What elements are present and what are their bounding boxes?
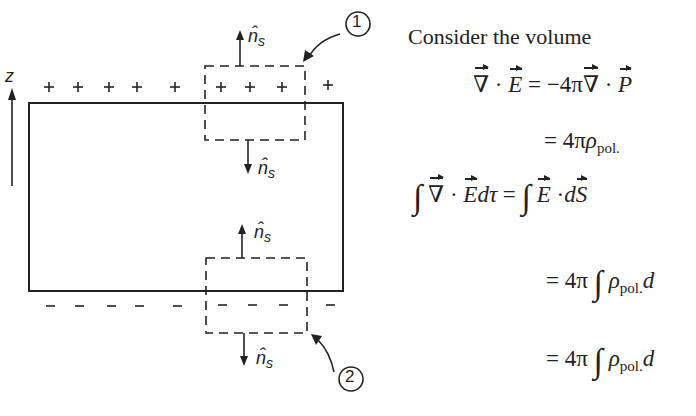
normal-symbol: n̂ (248, 26, 258, 46)
normal-label-bottom-down: n̂s (256, 348, 273, 369)
equals: = (528, 72, 541, 97)
dielectric-slab-figure (0, 0, 396, 416)
vector-E: E (508, 72, 522, 98)
coefficient: 4π (565, 268, 588, 293)
integral-sign: ∫ (594, 342, 603, 379)
normal-down-arrow-icon (244, 140, 252, 174)
normal-up-arrow-icon (238, 224, 246, 258)
dot-operator: · (495, 72, 503, 97)
normal-subscript: s (258, 33, 265, 49)
gaussian-pillbox-bottom (206, 258, 307, 333)
equals: = (546, 346, 559, 371)
normal-label-top-down: n̂s (258, 158, 275, 179)
surface-negative-charges (46, 305, 335, 306)
vector-P: P (618, 72, 632, 98)
vector-E: E (537, 182, 551, 208)
vector-S: S (576, 182, 588, 208)
integral-sign: ∫ (594, 264, 603, 301)
subscript-pol: pol. (597, 140, 620, 156)
d: d (564, 182, 576, 207)
surface-positive-charges (44, 80, 333, 92)
equation-volume-integral-1: = 4π ∫ ρpol.d (546, 258, 654, 296)
equals: = (546, 268, 559, 293)
rho: ρ (609, 346, 620, 371)
equals: = (544, 128, 557, 153)
dot-operator: · (605, 72, 613, 97)
equation-divergence-E: ∇ · E = −4π∇ · P (473, 71, 632, 98)
z-axis-label: z (5, 66, 14, 87)
dot-operator: · (450, 182, 458, 207)
subscript-pol: pol. (620, 358, 643, 374)
intro-text: Consider the volume (408, 24, 591, 50)
dot-operator: · (556, 182, 564, 207)
equation-divergence-theorem: ∫ ∇ · Edτ = ∫ E ·dS (413, 172, 587, 210)
normal-up-arrow-icon (236, 30, 244, 66)
dielectric-slab (29, 103, 343, 291)
callout-2 (311, 334, 363, 391)
normal-subscript: s (264, 229, 271, 245)
nabla: ∇ (428, 181, 444, 208)
d-tau: dτ (477, 182, 497, 207)
normal-symbol: n̂ (254, 222, 264, 242)
normal-symbol: n̂ (258, 158, 268, 178)
normal-subscript: s (266, 355, 273, 371)
integral-sign: ∫ (522, 178, 531, 215)
normal-subscript: s (268, 165, 275, 181)
d: d (643, 346, 655, 371)
integral-sign: ∫ (413, 178, 422, 215)
nabla: ∇ (583, 71, 599, 98)
rho: ρ (586, 128, 597, 153)
normal-symbol: n̂ (256, 348, 266, 368)
coefficient: 4π (563, 128, 586, 153)
coefficient: 4π (565, 346, 588, 371)
normal-down-arrow-icon (240, 333, 248, 366)
callout-label-2: 2 (345, 367, 354, 387)
nabla: ∇ (473, 71, 489, 98)
d: d (643, 268, 655, 293)
z-axis-arrow-icon (8, 88, 16, 186)
rho: ρ (609, 268, 620, 293)
coefficient: −4π (547, 72, 583, 97)
equation-volume-integral-2: = 4π ∫ ρpol.d (546, 336, 654, 374)
normal-label-top-up: n̂s (248, 26, 265, 47)
subscript-pol: pol. (620, 280, 643, 296)
callout-label-1: 1 (352, 12, 361, 32)
equals: = (503, 182, 516, 207)
vector-E: E (463, 182, 477, 208)
equation-rho-pol: = 4πρpol. (544, 128, 620, 154)
normal-label-bottom-up: n̂s (254, 222, 271, 243)
